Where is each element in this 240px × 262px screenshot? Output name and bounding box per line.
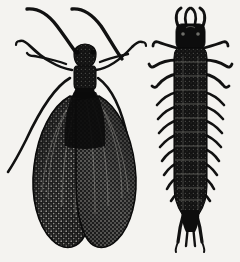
- eye-right: [90, 49, 95, 54]
- wing-base-shadow: [65, 92, 105, 149]
- pronotum: [74, 66, 96, 90]
- illustration-plate: Dobsonfly adult Hellgrammite larva: [0, 0, 240, 262]
- head-capsule: [176, 24, 205, 50]
- head: [74, 44, 96, 68]
- plate-canvas: [0, 0, 240, 262]
- eye-left: [74, 49, 79, 54]
- abdominal-segments: [174, 48, 207, 214]
